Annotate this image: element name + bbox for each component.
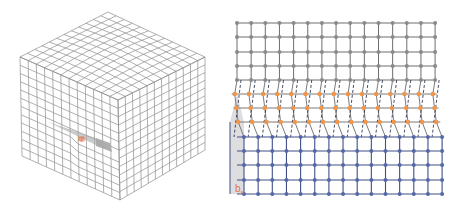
figure-canvas: bs b <box>0 0 461 211</box>
dislocation-core-label: b <box>78 134 83 143</box>
left-panel-cube <box>20 12 205 200</box>
dislocation-figure: bs b <box>0 0 461 211</box>
right-panel-lattice <box>230 21 444 196</box>
